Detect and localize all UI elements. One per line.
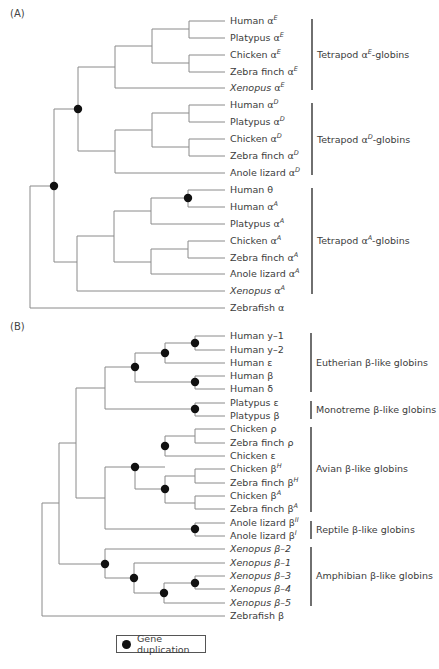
leaf-label: Xenopus αA <box>230 285 285 297</box>
gene-duplication-node <box>184 194 192 202</box>
leaf-label: Anole lizard αD <box>230 167 300 179</box>
group-label-eutherian: Eutherian β-like globins <box>316 357 428 369</box>
group-label-monotreme: Monotreme β-like globins <box>316 404 436 416</box>
leaf-label: Platypus ε <box>230 397 279 409</box>
leaf-label: Human β <box>230 370 273 382</box>
leaf-label: Zebra finch βH <box>230 477 298 489</box>
phylogenetic-tree <box>0 0 439 669</box>
leaf-label: Human θ <box>230 184 273 196</box>
leaf-label: Xenopus αE <box>230 82 285 94</box>
leaf-label: Chicken αE <box>230 49 281 61</box>
leaf-label: Platypus αD <box>230 116 285 128</box>
leaf-label: Platypus αA <box>230 218 284 230</box>
leaf-label: Chicken βH <box>230 463 282 475</box>
leaf-label: Zebra finch αD <box>230 150 299 162</box>
leaf-label: Chicken ρ <box>230 423 277 435</box>
gene-duplication-node <box>161 485 169 493</box>
group-label-tetrapod-alpha-a: Tetrapod αA-globins <box>317 235 410 247</box>
leaf-label: Anole lizard βI <box>230 530 297 542</box>
leaf-label: Human y–2 <box>230 344 284 356</box>
group-label-reptile: Reptile β-like globins <box>316 524 415 536</box>
panel-a-branches <box>30 21 225 308</box>
leaf-label: Platypus αE <box>230 32 284 44</box>
leaf-label: Chicken ε <box>230 450 276 462</box>
leaf-label: Chicken βA <box>230 490 281 502</box>
panel-a-duplication-nodes <box>50 105 192 202</box>
leaf-label: Anole lizard αA <box>230 268 299 280</box>
leaf-label: Zebrafish α <box>230 302 284 314</box>
gene-duplication-node <box>191 579 199 587</box>
group-label-tetrapod-alpha-d: Tetrapod αD-globins <box>317 134 410 146</box>
gene-duplication-node <box>191 378 199 386</box>
gene-duplication-node <box>101 560 109 568</box>
leaf-label: Platypus β <box>230 410 280 422</box>
leaf-label: Human αD <box>230 99 279 111</box>
gene-duplication-node <box>50 182 58 190</box>
leaf-label: Xenopus β–2 <box>230 543 291 555</box>
gene-duplication-node <box>130 574 138 582</box>
legend-label: Gene duplication <box>137 633 205 655</box>
leaf-label: Zebrafish β <box>230 610 284 622</box>
leaf-label: Xenopus β–1 <box>230 557 291 569</box>
group-label-amphibian: Amphibian β-like globins <box>316 570 433 582</box>
leaf-label: Human y–1 <box>230 330 284 342</box>
leaf-label: Human αE <box>230 15 278 27</box>
leaf-label: Zebra finch βA <box>230 503 298 515</box>
leaf-label: Xenopus β–4 <box>230 583 291 595</box>
gene-duplication-node <box>74 105 82 113</box>
leaf-label: Zebra finch αA <box>230 252 298 264</box>
leaf-label: Xenopus β–5 <box>230 597 291 609</box>
leaf-label: Anole lizard βII <box>230 517 299 529</box>
gene-duplication-node <box>160 589 168 597</box>
gene-duplication-node <box>191 339 199 347</box>
gene-duplication-node <box>191 405 199 413</box>
legend: Gene duplication <box>116 635 206 653</box>
leaf-label: Chicken αA <box>230 235 281 247</box>
leaf-label: Zebra finch αE <box>230 66 298 78</box>
leaf-label: Chicken αD <box>230 133 282 145</box>
leaf-label: Xenopus β–3 <box>230 570 291 582</box>
panel-b-duplication-nodes <box>101 339 199 597</box>
gene-duplication-node <box>161 442 169 450</box>
leaf-label: Human δ <box>230 383 273 395</box>
leaf-label: Zebra finch ρ <box>230 437 293 449</box>
gene-duplication-node <box>131 363 139 371</box>
gene-duplication-node <box>161 349 169 357</box>
leaf-label: Human ε <box>230 357 272 369</box>
group-label-avian: Avian β-like globins <box>316 463 408 475</box>
gene-duplication-node <box>191 525 199 533</box>
gene-duplication-dot-icon <box>122 640 131 649</box>
leaf-label: Human αA <box>230 201 278 213</box>
gene-duplication-node <box>131 463 139 471</box>
group-label-tetrapod-alpha-e: Tetrapod αE-globins <box>317 49 409 61</box>
